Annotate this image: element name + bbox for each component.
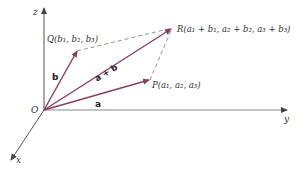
point-q-label: Q(b₁, b₂, b₃) (47, 34, 98, 44)
point-p-label: P(a₁, a₂, a₃) (151, 80, 201, 90)
x-axis (11, 110, 44, 160)
vector-b-label: b (52, 72, 59, 82)
x-axis-label: x (16, 155, 21, 165)
vector-b (44, 51, 77, 110)
vector-sum-label: a + b (93, 62, 119, 84)
point-r-label: R(a₁ + b₁, a₂ + b₂, a₃ + b₃) (176, 24, 290, 34)
z-axis-label: z (32, 7, 38, 17)
origin-label: O (31, 105, 39, 115)
vector-diagram: z y x O b a + b a Q(b₁, b₂, b₃) R(a₁ + b… (0, 0, 306, 170)
y-axis-label: y (283, 114, 290, 124)
vector-a-label: a (95, 99, 101, 109)
